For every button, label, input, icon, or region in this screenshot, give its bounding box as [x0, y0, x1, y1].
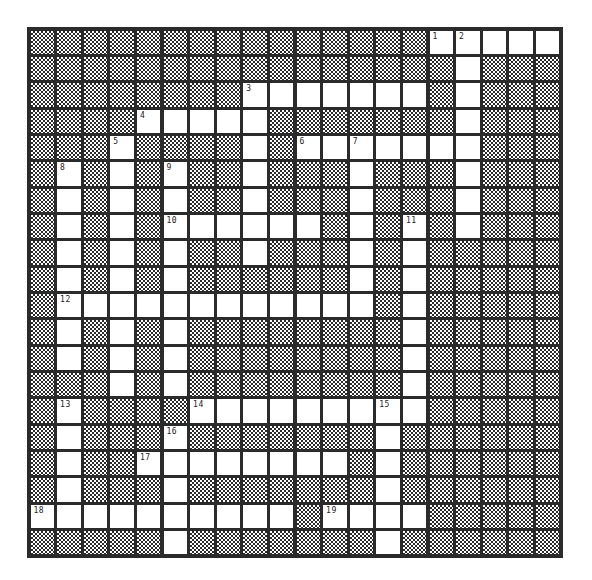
crossword-cell[interactable] [57, 320, 81, 343]
crossword-cell[interactable] [110, 320, 134, 343]
crossword-cell[interactable] [350, 215, 374, 238]
crossword-cell[interactable] [323, 136, 347, 159]
crossword-cell[interactable] [456, 110, 480, 133]
crossword-cell[interactable] [57, 478, 81, 501]
crossword-cell[interactable]: 14 [190, 399, 214, 422]
crossword-cell[interactable] [57, 189, 81, 212]
crossword-cell[interactable]: 15 [376, 399, 400, 422]
crossword-cell[interactable] [350, 83, 374, 106]
crossword-cell[interactable] [350, 294, 374, 317]
crossword-cell[interactable] [164, 294, 188, 317]
crossword-cell[interactable] [217, 294, 241, 317]
crossword-cell[interactable] [243, 110, 267, 133]
crossword-cell[interactable]: 18 [31, 505, 55, 528]
crossword-cell[interactable] [376, 83, 400, 106]
crossword-cell[interactable] [243, 452, 267, 475]
crossword-cell[interactable] [456, 189, 480, 212]
crossword-cell[interactable] [270, 452, 294, 475]
crossword-cell[interactable] [164, 189, 188, 212]
crossword-cell[interactable]: 3 [243, 83, 267, 106]
crossword-cell[interactable]: 8 [57, 162, 81, 185]
crossword-cell[interactable]: 6 [297, 136, 321, 159]
crossword-cell[interactable]: 11 [403, 215, 427, 238]
crossword-cell[interactable] [57, 505, 81, 528]
crossword-cell[interactable] [57, 426, 81, 449]
crossword-cell[interactable] [456, 136, 480, 159]
crossword-cell[interactable] [164, 110, 188, 133]
crossword-cell[interactable] [217, 110, 241, 133]
crossword-cell[interactable] [323, 83, 347, 106]
crossword-cell[interactable] [110, 189, 134, 212]
crossword-cell[interactable] [84, 505, 108, 528]
crossword-cell[interactable]: 2 [456, 31, 480, 54]
crossword-cell[interactable] [110, 162, 134, 185]
crossword-cell[interactable]: 1 [430, 31, 454, 54]
crossword-cell[interactable] [350, 268, 374, 291]
crossword-cell[interactable] [270, 505, 294, 528]
crossword-cell[interactable] [164, 320, 188, 343]
crossword-cell[interactable] [456, 162, 480, 185]
crossword-cell[interactable] [350, 189, 374, 212]
crossword-cell[interactable] [164, 268, 188, 291]
crossword-cell[interactable] [297, 83, 321, 106]
crossword-cell[interactable] [57, 452, 81, 475]
crossword-cell[interactable] [164, 505, 188, 528]
crossword-cell[interactable] [350, 162, 374, 185]
crossword-cell[interactable] [270, 399, 294, 422]
crossword-cell[interactable]: 16 [164, 426, 188, 449]
crossword-cell[interactable]: 17 [137, 452, 161, 475]
crossword-cell[interactable] [243, 162, 267, 185]
crossword-cell[interactable]: 5 [110, 136, 134, 159]
crossword-cell[interactable] [270, 83, 294, 106]
crossword-cell[interactable] [243, 399, 267, 422]
crossword-cell[interactable] [57, 347, 81, 370]
crossword-cell[interactable] [190, 215, 214, 238]
crossword-cell[interactable] [483, 31, 507, 54]
crossword-cell[interactable] [403, 136, 427, 159]
crossword-cell[interactable] [217, 505, 241, 528]
crossword-cell[interactable] [323, 294, 347, 317]
crossword-cell[interactable] [243, 189, 267, 212]
crossword-cell[interactable] [243, 505, 267, 528]
crossword-cell[interactable] [536, 31, 560, 54]
crossword-cell[interactable] [350, 505, 374, 528]
crossword-cell[interactable] [84, 294, 108, 317]
crossword-cell[interactable]: 10 [164, 215, 188, 238]
crossword-cell[interactable] [376, 478, 400, 501]
crossword-cell[interactable] [164, 373, 188, 396]
crossword-cell[interactable] [323, 452, 347, 475]
crossword-cell[interactable] [403, 373, 427, 396]
crossword-cell[interactable] [456, 215, 480, 238]
crossword-cell[interactable]: 4 [137, 110, 161, 133]
crossword-cell[interactable] [110, 294, 134, 317]
crossword-cell[interactable] [137, 505, 161, 528]
crossword-cell[interactable] [270, 215, 294, 238]
crossword-cell[interactable] [110, 347, 134, 370]
crossword-cell[interactable]: 12 [57, 294, 81, 317]
crossword-cell[interactable] [297, 399, 321, 422]
crossword-cell[interactable]: 9 [164, 162, 188, 185]
crossword-cell[interactable] [403, 505, 427, 528]
crossword-cell[interactable] [243, 136, 267, 159]
crossword-cell[interactable] [297, 452, 321, 475]
crossword-cell[interactable] [164, 478, 188, 501]
crossword-cell[interactable] [350, 399, 374, 422]
crossword-cell[interactable] [403, 268, 427, 291]
crossword-cell[interactable] [430, 136, 454, 159]
crossword-cell[interactable] [137, 294, 161, 317]
crossword-cell[interactable] [403, 320, 427, 343]
crossword-cell[interactable] [110, 215, 134, 238]
crossword-cell[interactable] [164, 347, 188, 370]
crossword-cell[interactable]: 19 [323, 505, 347, 528]
crossword-cell[interactable] [110, 268, 134, 291]
crossword-cell[interactable] [403, 347, 427, 370]
crossword-cell[interactable] [57, 241, 81, 264]
crossword-cell[interactable] [376, 452, 400, 475]
crossword-cell[interactable] [403, 241, 427, 264]
crossword-cell[interactable] [190, 110, 214, 133]
crossword-cell[interactable] [403, 399, 427, 422]
crossword-cell[interactable] [164, 241, 188, 264]
crossword-cell[interactable] [243, 215, 267, 238]
crossword-cell[interactable] [270, 294, 294, 317]
crossword-cell[interactable]: 7 [350, 136, 374, 159]
